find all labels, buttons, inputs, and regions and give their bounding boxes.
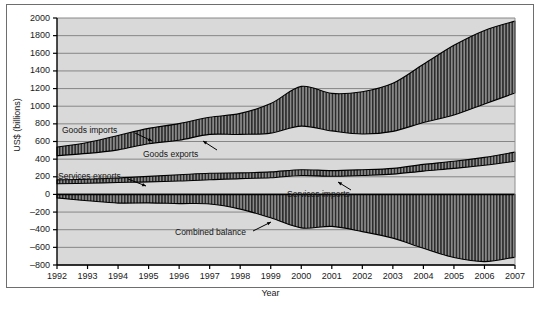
annotation-combined-balance: Combined balance <box>175 228 246 237</box>
x-tick-label: 2007 <box>493 272 537 281</box>
y-tick-label: –600 <box>8 243 50 252</box>
annotation-goods-exports: Goods exports <box>143 150 198 159</box>
chart-figure: US$ (billions) Year 20001800160014001200… <box>0 0 541 309</box>
y-tick-label: –400 <box>8 225 50 234</box>
y-tick-label: 200 <box>8 172 50 181</box>
y-tick-label: 1000 <box>8 102 50 111</box>
y-tick-label: –200 <box>8 208 50 217</box>
y-tick-label: 2000 <box>8 14 50 23</box>
y-tick-label: –800 <box>8 261 50 270</box>
y-tick-label: 400 <box>8 155 50 164</box>
annotation-services-imports: Services imports <box>287 190 350 199</box>
y-tick-label: 800 <box>8 119 50 128</box>
y-tick-label: 0 <box>8 190 50 199</box>
y-tick-label: 1400 <box>8 66 50 75</box>
y-tick-label: 1600 <box>8 49 50 58</box>
annotation-goods-imports: Goods imports <box>62 126 117 135</box>
annotation-services-exports: Services exports <box>58 172 121 181</box>
chart-svg <box>0 0 541 309</box>
y-tick-label: 1200 <box>8 84 50 93</box>
plot-area: 2000180016001400120010008006004002000–20… <box>0 0 541 309</box>
y-tick-label: 600 <box>8 137 50 146</box>
y-tick-label: 1800 <box>8 31 50 40</box>
